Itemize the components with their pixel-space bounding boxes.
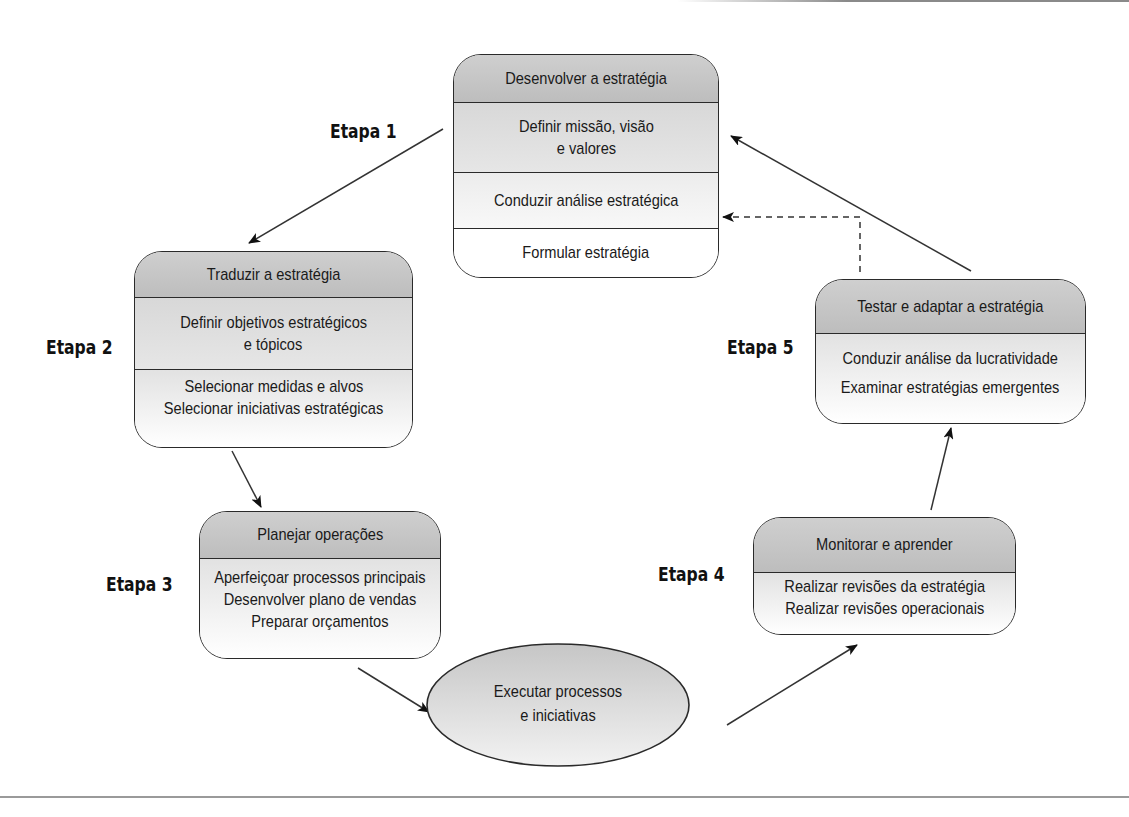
arrow-etapa3-to-execute <box>358 668 429 712</box>
stage-title: Traduzir a estratégia <box>135 252 412 298</box>
stage-box-monitor-learn: Monitorar e aprender Realizar revisões d… <box>753 517 1016 635</box>
stage-item: Conduzir análise estratégica <box>454 173 718 229</box>
arrow-etapa1-to-etapa2 <box>249 129 443 243</box>
step-label-3: Etapa 3 <box>106 573 173 595</box>
step-label-5: Etapa 5 <box>727 336 794 358</box>
stage-item: Definir missão, visão e valores <box>454 103 718 173</box>
stage-title: Desenvolver a estratégia <box>454 55 718 103</box>
arrow-execute-to-etapa4 <box>727 645 857 725</box>
stage-item: Realizar revisões da estratégia Realizar… <box>754 573 1015 634</box>
stage-item: Formular estratégia <box>454 229 718 277</box>
stage-item: Aperfeiçoar processos principais Desenvo… <box>200 559 440 658</box>
stage-box-test-adapt: Testar e adaptar a estratégia Conduzir a… <box>815 279 1086 424</box>
stage-box-develop-strategy: Desenvolver a estratégia Definir missão,… <box>453 54 719 278</box>
execution-label: Executar processos e iniciativas <box>458 680 658 728</box>
arrow-etapa5-to-etapa1 <box>731 136 971 271</box>
step-label-4: Etapa 4 <box>658 563 725 585</box>
step-label-1: Etapa 1 <box>330 120 397 142</box>
stage-item: Selecionar medidas e alvos Selecionar in… <box>135 370 412 447</box>
arrow-etapa4-to-etapa5 <box>931 428 951 510</box>
stage-title: Testar e adaptar a estratégia <box>816 280 1085 334</box>
stage-title: Planejar operações <box>200 512 440 559</box>
stage-item: Definir objetivos estratégicos e tópicos <box>135 298 412 370</box>
step-label-2: Etapa 2 <box>46 336 113 358</box>
stage-item: Conduzir análise da lucratividade Examin… <box>816 334 1085 423</box>
stage-title: Monitorar e aprender <box>754 518 1015 573</box>
dashed-arrow-etapa5-to-analysis <box>723 217 860 272</box>
stage-box-plan-operations: Planejar operações Aperfeiçoar processos… <box>199 511 441 659</box>
arrow-etapa2-to-etapa3 <box>232 451 261 507</box>
stage-box-translate-strategy: Traduzir a estratégia Definir objetivos … <box>134 251 413 448</box>
